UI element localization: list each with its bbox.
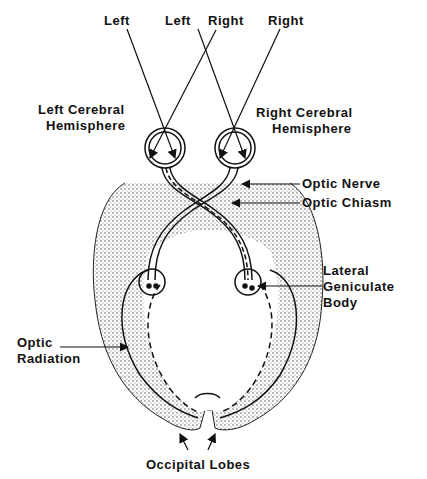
optic-radiation-label-2: Radiation	[17, 352, 81, 366]
lgb-label-1: Lateral	[323, 264, 369, 278]
lgb-label-3: Body	[323, 296, 358, 310]
visual-field-left-outer: Left	[104, 14, 130, 28]
left-hemisphere-label-2: Hemisphere	[46, 119, 125, 133]
lgb-label-2: Geniculate	[323, 280, 394, 294]
visual-field-right-outer: Right	[268, 14, 304, 28]
visual-field-left-inner: Left	[165, 14, 191, 28]
left-hemisphere-label-1: Left Cerebral	[38, 103, 125, 117]
visual-field-rays	[127, 29, 280, 158]
left-eye	[145, 128, 185, 168]
visual-pathway-diagram	[0, 0, 427, 479]
right-hemisphere-label-1: Right Cerebral	[256, 106, 353, 120]
visual-field-right-inner: Right	[208, 14, 244, 28]
right-eye	[215, 128, 255, 168]
optic-chiasm-label: Optic Chiasm	[302, 196, 392, 210]
optic-nerve-label: Optic Nerve	[302, 177, 380, 191]
optic-radiation-label-1: Optic	[17, 336, 53, 350]
right-hemisphere-label-2: Hemisphere	[272, 122, 351, 136]
occipital-lobes-label: Occipital Lobes	[146, 458, 250, 472]
